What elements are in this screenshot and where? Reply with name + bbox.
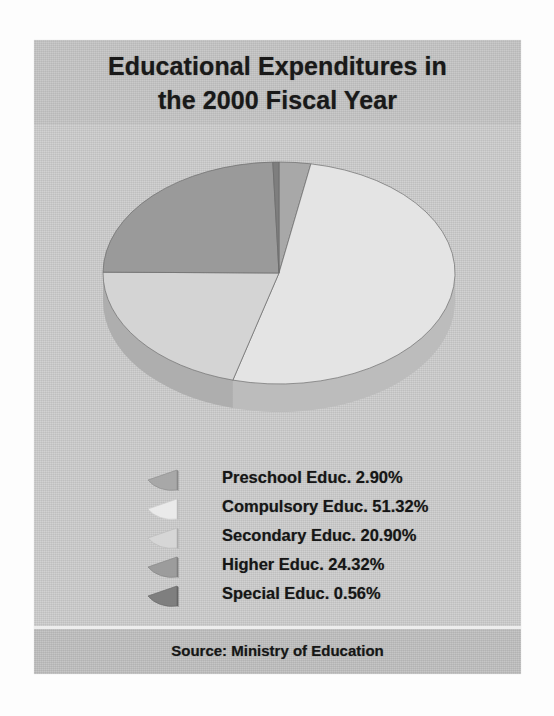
legend-swatch-secondary xyxy=(144,525,180,551)
chart-legend: Preschool Educ. 2.90% Compulsory Educ. 5… xyxy=(144,465,484,610)
legend-swatch-higher xyxy=(144,554,180,580)
legend-item-label: Secondary Educ. 20.90% xyxy=(222,526,416,545)
legend-swatch-preschool xyxy=(144,467,180,493)
page-title-line-1: Educational Expenditures in xyxy=(108,52,447,80)
pie-chart-svg xyxy=(34,125,521,470)
figure-panel: Educational Expenditures in the 2000 Fis… xyxy=(34,40,521,674)
footer-band: Source: Ministry of Education xyxy=(34,629,521,674)
legend-swatch-compulsory xyxy=(144,496,180,522)
page-title-line-2: the 2000 Fiscal Year xyxy=(34,84,521,118)
legend-item: Higher Educ. 24.32% xyxy=(144,552,484,581)
legend-item: Compulsory Educ. 51.32% xyxy=(144,494,484,523)
legend-item-label: Special Educ. 0.56% xyxy=(222,584,381,603)
legend-swatch-special xyxy=(144,583,180,609)
legend-item-label: Preschool Educ. 2.90% xyxy=(222,468,403,487)
legend-item: Preschool Educ. 2.90% xyxy=(144,465,484,494)
title-band: Educational Expenditures in the 2000 Fis… xyxy=(34,40,521,125)
page-title: Educational Expenditures in the 2000 Fis… xyxy=(34,50,521,118)
legend-item-label: Higher Educ. 24.32% xyxy=(222,555,384,574)
legend-item-label: Compulsory Educ. 51.32% xyxy=(222,497,428,516)
legend-item: Special Educ. 0.56% xyxy=(144,581,484,610)
pie-slice-higher-educ xyxy=(103,162,279,273)
legend-item: Secondary Educ. 20.90% xyxy=(144,523,484,552)
pie-top-faces xyxy=(103,162,455,384)
scanned-page: Educational Expenditures in the 2000 Fis… xyxy=(0,0,554,716)
pie-chart xyxy=(34,125,521,470)
source-note: Source: Ministry of Education xyxy=(34,642,521,659)
